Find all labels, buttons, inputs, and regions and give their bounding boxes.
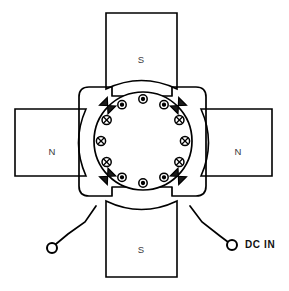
conductor-cross bbox=[102, 115, 111, 124]
pole-top-body bbox=[106, 13, 177, 89]
pole-top-label: S bbox=[138, 54, 145, 65]
terminal-right[interactable] bbox=[227, 240, 237, 250]
conductor-cross bbox=[180, 136, 189, 145]
pole-bottom-label: S bbox=[138, 244, 145, 255]
pole-right-label: N bbox=[234, 146, 241, 157]
conductor-cross bbox=[175, 115, 184, 124]
conductor-dot bbox=[160, 100, 168, 108]
terminal-left[interactable] bbox=[47, 243, 57, 253]
conductor-cross bbox=[96, 136, 105, 145]
pole-top: S bbox=[106, 13, 177, 89]
current-out-dot-icon bbox=[121, 103, 124, 106]
pole-right-body bbox=[201, 109, 272, 176]
pole-left-body bbox=[15, 109, 86, 176]
current-out-dot-icon bbox=[163, 103, 166, 106]
pole-left-label: N bbox=[48, 146, 55, 157]
conductor-dot bbox=[160, 173, 168, 181]
pole-right: N bbox=[201, 109, 272, 176]
pole-bottom: S bbox=[106, 201, 177, 277]
current-out-dot-icon bbox=[142, 182, 145, 185]
lead-wire-left bbox=[56, 206, 96, 244]
dc-in-label: DC IN bbox=[245, 239, 275, 250]
current-out-dot-icon bbox=[163, 176, 166, 179]
conductor-dot bbox=[139, 179, 147, 187]
pole-bottom-body bbox=[106, 201, 177, 277]
lead-wire-right bbox=[190, 206, 228, 242]
conductor-dot bbox=[139, 95, 147, 103]
conductor-dot bbox=[118, 100, 126, 108]
conductor-dot bbox=[118, 173, 126, 181]
motor-cross-section-svg: S N S N bbox=[0, 0, 289, 291]
conductor-cross bbox=[102, 157, 111, 166]
current-out-dot-icon bbox=[142, 98, 145, 101]
current-out-dot-icon bbox=[121, 176, 124, 179]
conductor-cross bbox=[175, 157, 184, 166]
pole-left: N bbox=[15, 109, 86, 176]
dc-motor-diagram: S N S N bbox=[0, 0, 289, 291]
